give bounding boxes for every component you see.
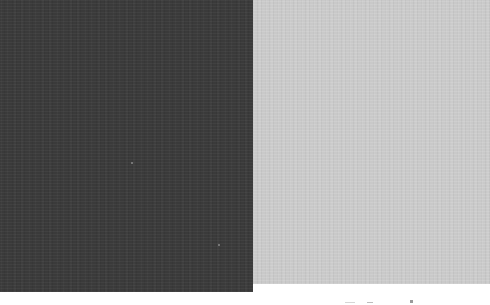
dust-speck	[218, 244, 220, 246]
light-gray-swatch	[253, 0, 490, 284]
scan-artifact	[367, 302, 373, 303]
scan-artifact	[345, 302, 355, 303]
dark-gray-swatch	[0, 0, 253, 292]
scan-artifact	[410, 300, 413, 303]
dust-speck	[131, 162, 133, 164]
